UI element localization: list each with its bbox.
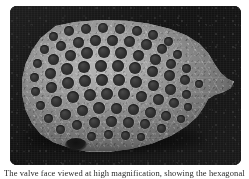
microfossil-specimen: [19, 18, 234, 153]
specimen-rim-highlight: [19, 18, 234, 153]
figure-caption-text: The valve face viewed at high magnificat…: [4, 169, 245, 178]
figure-caption: The valve face viewed at high magnificat…: [4, 169, 245, 179]
ventral-notch-icon: [65, 138, 87, 151]
figure-plate: [10, 6, 241, 165]
